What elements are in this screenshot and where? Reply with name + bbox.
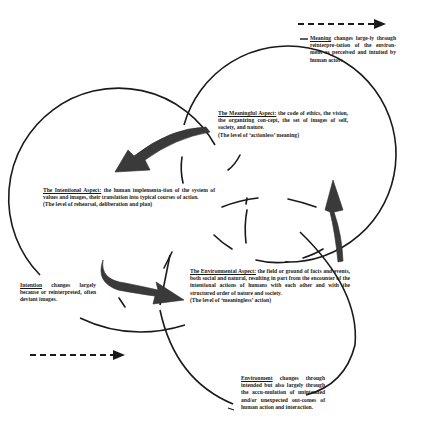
meaningful-circle-arc: [184, 46, 396, 262]
environment-note: Environment changes through intended but…: [241, 375, 325, 411]
environmental-left-arc: [160, 310, 233, 404]
arrow-environment-to-meaning: [325, 180, 343, 262]
cycle-diagram: [0, 0, 423, 446]
environmental-aspect-level: (The level of ‘meaningless’ action): [190, 297, 350, 304]
meaningful-aspect-heading: The Meaningful Aspect:: [218, 110, 276, 116]
intentional-circle-arc: [9, 88, 215, 275]
arrow-intention-to-environment: [101, 260, 184, 304]
arrow-meaning-to-intention: [115, 127, 210, 172]
intention-note: Intention changes largely because or rei…: [20, 282, 96, 304]
intentional-aspect-level: (The level of rehearsal, deliberation an…: [43, 201, 215, 208]
environment-connector: [228, 408, 234, 410]
meaningful-aspect-box: The Meaningful Aspect: the code of ethic…: [218, 110, 348, 139]
intentional-aspect-box: The Intentional Aspect: the human implem…: [43, 187, 215, 209]
environmental-aspect-box: The Environmental Aspect: the field or g…: [190, 268, 350, 304]
intention-bottom-arc: [80, 318, 185, 332]
dashed-arrow-bottom-left: [30, 350, 125, 360]
intention-note-heading: Intention: [20, 282, 42, 288]
intentional-aspect-heading: The Intentional Aspect:: [43, 187, 101, 193]
meaning-note: Meaning changes large-ly through reinter…: [310, 35, 396, 64]
meaning-note-heading: Meaning: [310, 35, 331, 41]
meaningful-aspect-level: (The level of ‘actionless’ meaning): [218, 132, 348, 139]
environment-note-heading: Environment: [241, 375, 273, 381]
dashed-arrow-top-right: [298, 19, 386, 29]
environmental-aspect-heading: The Environmental Aspect:: [190, 268, 256, 274]
